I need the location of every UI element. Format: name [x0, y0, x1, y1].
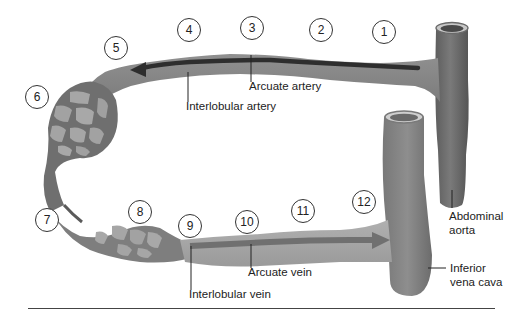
glomerulus-capillary-bed	[44, 82, 118, 212]
label-abdominal-aorta-line1: Abdominal	[449, 209, 503, 223]
abdominal-aorta	[435, 23, 468, 209]
step-number-4: 4	[177, 18, 201, 42]
step-number-12: 12	[352, 190, 376, 214]
step-number-10: 10	[235, 210, 259, 234]
label-interlobular-artery: Interlobular artery	[186, 99, 276, 113]
step-number-3: 3	[240, 16, 264, 40]
step-number-2: 2	[309, 18, 333, 42]
label-inferior-vena-cava-line1: Inferior	[450, 261, 486, 275]
step-number-7: 7	[35, 208, 59, 232]
arcuate-vein-vessel	[180, 220, 392, 267]
label-inferior-vena-cava-line2: vena cava	[450, 275, 502, 289]
step-number-9: 9	[178, 214, 202, 238]
step-number-8: 8	[128, 200, 152, 224]
step-number-6: 6	[25, 85, 49, 109]
inferior-vena-cava	[383, 111, 432, 296]
arcuate-artery-vessel	[92, 54, 440, 102]
peritubular-capillary-bed	[50, 205, 190, 263]
label-interlobular-vein: Interlobular vein	[189, 287, 271, 301]
step-number-11: 11	[291, 199, 315, 223]
label-abdominal-aorta-line2: aorta	[449, 223, 475, 237]
label-arcuate-artery: Arcuate artery	[249, 79, 321, 93]
step-number-5: 5	[104, 36, 128, 60]
bottom-rule-divider	[28, 308, 495, 309]
step-number-1: 1	[372, 20, 396, 44]
label-arcuate-vein: Arcuate vein	[248, 265, 312, 279]
